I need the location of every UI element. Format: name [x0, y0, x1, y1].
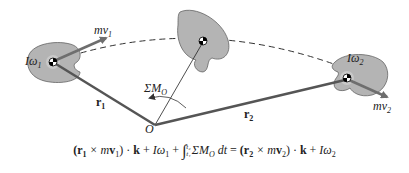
label-r1: r1	[96, 95, 105, 111]
label-iw2: Iω2	[346, 51, 363, 67]
cg-marker-2-icon	[343, 74, 351, 82]
impulse-momentum-equation: (r1 × mv1) · k + Iω1 + ∫t₂t₁ΣMO dt = (r2…	[0, 142, 409, 160]
cg-marker-1-icon	[49, 58, 57, 66]
label-r2: r2	[244, 107, 253, 123]
label-sum-mo: ΣMO	[143, 81, 167, 97]
cg-marker-mid-icon	[199, 37, 207, 45]
mid-radius-line	[155, 42, 203, 125]
label-mv1: mv1	[94, 23, 112, 39]
label-mv2: mv2	[373, 99, 391, 115]
position-vector-r1	[56, 64, 155, 125]
label-origin: O	[145, 122, 154, 136]
